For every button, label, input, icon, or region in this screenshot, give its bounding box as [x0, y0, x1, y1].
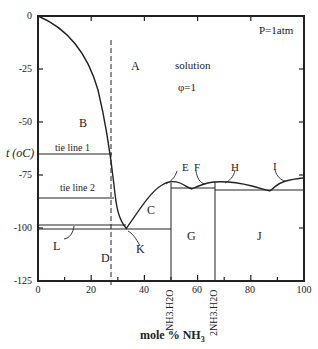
y-tick-100: -100 — [0, 223, 32, 233]
x-axis-title-text: mole % NH — [140, 328, 201, 342]
region-e-label: E — [182, 162, 189, 173]
x-tick-0: 0 — [23, 285, 53, 295]
region-b-label: B — [79, 117, 87, 129]
x-axis-title-subscript: 3 — [201, 335, 205, 344]
x-tick-20: 20 — [76, 285, 106, 295]
x-axis-title: mole % NH3 — [140, 328, 205, 344]
y-tick-0: 0 — [0, 11, 32, 21]
solution-label: solution — [175, 60, 210, 71]
region-c-label: C — [147, 204, 155, 216]
x-tick-100: 100 — [289, 285, 318, 295]
region-j-label: J — [257, 230, 262, 242]
nh3-liquidus-curve — [270, 178, 304, 191]
region-h-label: H — [231, 162, 239, 173]
region-l-label: L — [53, 240, 60, 252]
compound-label-2nh3h2o: 2NH3.H2O — [209, 290, 219, 336]
region-g-label: G — [187, 230, 196, 242]
x-tick-40: 40 — [129, 285, 159, 295]
compound-label-nh3h2o: NH3.H2O — [165, 290, 175, 331]
nh3h2o-liquidus-curve — [126, 182, 192, 229]
y-axis-title: t (oC) — [6, 146, 34, 161]
y-tick-25: -25 — [0, 64, 32, 74]
tie-line-1-label: tie line 1 — [55, 143, 90, 153]
x-tick-80: 80 — [235, 285, 265, 295]
phi-label: φ=1 — [178, 82, 196, 93]
region-f-label: F — [194, 162, 200, 173]
phase-diagram — [0, 0, 318, 349]
region-d-label: D — [101, 252, 110, 264]
region-k-label: K — [136, 243, 145, 255]
region-a-label: A — [131, 60, 140, 72]
y-tick-75: -75 — [0, 170, 32, 180]
pressure-label: P=1atm — [259, 25, 293, 36]
region-i-label: I — [273, 161, 277, 172]
tie-line-2-label: tie line 2 — [60, 183, 95, 193]
y-tick-50: -50 — [0, 117, 32, 127]
